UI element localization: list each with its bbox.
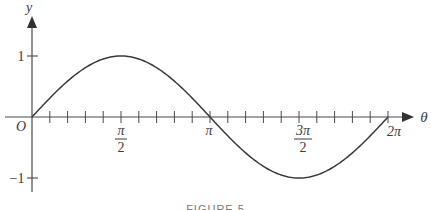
x-tick-label-3pi-half-num: 3π [295, 123, 311, 138]
x-tick-label-pi-half-den: 2 [118, 140, 125, 155]
y-tick-label-neg1: −1 [10, 171, 25, 186]
sine-chart: y θ O 1 −1 π 2 π 3π 2 2π [0, 0, 431, 210]
x-tick-label-2pi: 2π [387, 124, 402, 139]
figure-caption: FIGURE 5 [0, 203, 431, 210]
x-tick-label-pi-half-num: π [117, 123, 125, 138]
y-axis-arrow-icon [27, 16, 37, 28]
x-axis-label: θ [420, 109, 428, 125]
x-tick-label-3pi-half-den: 2 [300, 140, 307, 155]
origin-label: O [16, 119, 26, 134]
x-tick-label-pi: π [205, 123, 213, 138]
y-axis-label: y [24, 0, 33, 15]
x-axis-arrow-icon [402, 112, 414, 122]
y-tick-label-1: 1 [18, 49, 25, 64]
